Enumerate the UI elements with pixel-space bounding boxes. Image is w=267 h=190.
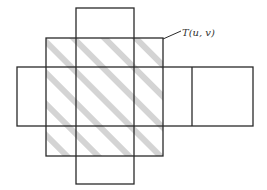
region-t-label: T(u, v) (182, 27, 215, 38)
diagram-canvas: T(u, v) (0, 0, 267, 190)
label-leader-line (163, 31, 181, 39)
region-t-hatch (46, 38, 163, 156)
